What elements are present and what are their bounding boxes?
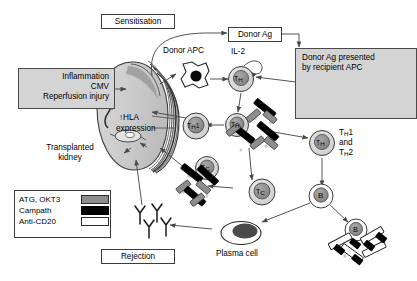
transplanted-kidney-label: Transplanted kidney: [37, 143, 103, 162]
donor-ag-label: Donor Ag: [238, 30, 272, 39]
recipient-apc-line-2: by recipient APC: [302, 63, 416, 73]
cell-label-th-right: TH: [316, 138, 325, 148]
legend-swatch-atg: [81, 195, 109, 204]
hla-expression-label: ↑HLA: [119, 113, 139, 123]
stimulus-panel: Inflammation CMV Reperfusion injury: [18, 68, 115, 109]
hla-expression-sublabel: expression: [116, 124, 156, 134]
transplant-rejection-diagram: Sensitisation Donor Ag Rejection Inflamm…: [0, 0, 417, 281]
legend-item-anticd20: Anti-CD20: [15, 216, 110, 227]
rejection-box: Rejection: [101, 249, 175, 264]
donor-apc-label: Donor APC: [163, 46, 204, 56]
th1-and-th2-label: TH1 and TH2: [339, 128, 353, 158]
legend-swatch-campath: [81, 206, 109, 215]
th1-and-th2-line-2: and: [339, 138, 353, 148]
cell-label-th1: TH1: [187, 121, 199, 131]
legend-label-anticd20: Anti-CD20: [15, 217, 81, 226]
antibody-cluster-icon: [135, 204, 171, 238]
legend-label-atg: ATG, OKT3: [15, 195, 81, 204]
legend-item-atg: ATG, OKT3: [15, 194, 110, 205]
sensitisation-label: Sensitisation: [115, 17, 161, 26]
il2-label: IL-2: [231, 47, 245, 57]
cell-plasma: [221, 222, 261, 245]
transplanted-kidney-line-2: kidney: [37, 153, 103, 163]
recipient-apc-line-1: Donor Ag presented: [302, 53, 416, 63]
recipient-apc-panel: Donor Ag presented by recipient APC: [295, 48, 417, 119]
diagram-canvas: [0, 0, 417, 281]
donor-ag-box: Donor Ag: [228, 27, 282, 42]
legend-item-campath: Campath: [15, 205, 110, 216]
stimulus-line-3: Reperfusion injury: [23, 92, 109, 102]
drug-legend: ATG, OKT3 Campath Anti-CD20: [14, 190, 111, 238]
rejection-label: Rejection: [121, 252, 155, 261]
stimulus-line-2: CMV: [23, 82, 109, 92]
donor-apc-icon: [181, 62, 209, 88]
hla-up-label: ↑HLA: [119, 113, 139, 122]
sensitisation-box: Sensitisation: [101, 14, 175, 29]
cell-label-th-central: TH: [231, 120, 240, 130]
cell-label-tc-center: TC: [256, 187, 265, 197]
th1-and-th2-line-1: TH1: [339, 128, 353, 138]
cell-label-b-upper: B: [318, 191, 323, 201]
cell-label-tc-left: TC: [201, 163, 210, 173]
legend-swatch-anticd20: [81, 217, 109, 226]
stimulus-line-1: Inflammation: [23, 72, 109, 82]
plasma-cell-label: Plasma cell: [216, 249, 258, 259]
th1-and-th2-line-3: TH2: [339, 148, 353, 158]
cell-label-th-il2: TH: [234, 74, 243, 84]
legend-label-campath: Campath: [15, 206, 81, 215]
transplanted-kidney-line-1: Transplanted: [37, 143, 103, 153]
cell-label-b-lower: B: [353, 225, 358, 235]
